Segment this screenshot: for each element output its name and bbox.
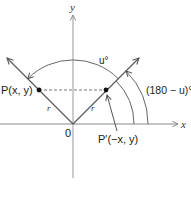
arc-supplement (126, 71, 148, 124)
arc-inner (116, 81, 134, 124)
angle-supplement-label: (180 − u)° (146, 84, 191, 96)
point-p-prime-label: P′(−x, y) (98, 133, 138, 145)
radius-right-label: r (91, 103, 95, 113)
reflection-diagram: y x 0 P(x, y) P′(−x, y) r r u° (180 − u)… (0, 0, 191, 197)
x-axis-label: x (180, 118, 186, 130)
y-axis-label: y (69, 1, 75, 13)
point-p-label: P(x, y) (1, 84, 33, 96)
point-p (37, 88, 42, 93)
pprime-pointer (107, 95, 117, 131)
point-p-prime (104, 88, 109, 93)
radius-left-label: r (47, 103, 51, 113)
origin-label: 0 (65, 127, 71, 139)
angle-u-label: u° (99, 55, 109, 66)
